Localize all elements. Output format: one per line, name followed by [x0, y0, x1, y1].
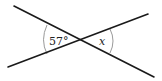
- diagram-canvas: [0, 0, 162, 81]
- left-angle-label: 57°: [49, 36, 69, 47]
- right-angle-label: x: [99, 36, 105, 47]
- left-angle-arc: [44, 25, 48, 54]
- intersecting-lines-diagram: 57° x: [0, 0, 162, 81]
- right-angle-arc: [110, 29, 113, 53]
- line-ascending: [8, 14, 148, 67]
- line-descending: [14, 6, 154, 77]
